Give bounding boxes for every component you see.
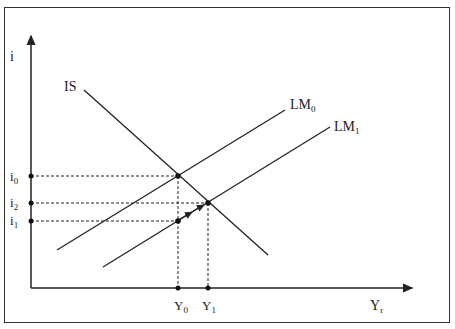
point-e2 [175,218,181,224]
movement-arrow-1 [180,212,192,219]
lm1-label: LM1 [334,119,360,136]
tick-label-i0: i0 [10,169,19,186]
is-curve [84,90,268,255]
tick-dot-i0 [29,174,34,179]
tick-label-i1: i1 [10,213,18,230]
point-e1 [205,200,211,206]
y-axis-label: i [10,49,14,64]
point-e0 [175,173,181,179]
lm0-curve [57,110,285,250]
tick-dot-i2 [29,201,34,206]
tick-label-i2: i2 [10,195,18,212]
tick-label-y0: Y0 [174,298,188,315]
movement-arrow-2 [193,205,204,211]
is-lm-diagram: i Yr IS LM0 LM1 i0 i2 i1 Y0 Y1 [0,0,455,329]
lm1-curve [103,127,330,267]
lm0-label: LM0 [290,97,316,114]
is-label: IS [64,79,76,94]
x-axis-label: Yr [370,298,383,315]
tick-dot-y0 [176,286,181,291]
tick-label-y1: Y1 [202,298,216,315]
tick-dot-y1 [206,286,211,291]
tick-dot-i1 [29,219,34,224]
